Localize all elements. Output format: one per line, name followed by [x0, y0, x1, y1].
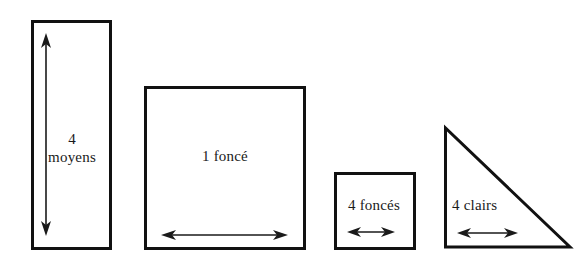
measure-arrow-triangle [457, 228, 518, 238]
shape-tall-rectangle [33, 22, 111, 249]
measure-arrow-vertical [41, 33, 51, 236]
measure-arrow-large-square [161, 230, 288, 240]
shape-small-square [336, 174, 415, 249]
figure-canvas: 4 moyens 1 foncé 4 foncés 4 clairs [0, 0, 586, 274]
shape-right-triangle [446, 128, 571, 247]
figure-drawing [0, 0, 586, 274]
measure-arrow-small-square [347, 227, 395, 237]
shape-large-square [146, 88, 305, 249]
